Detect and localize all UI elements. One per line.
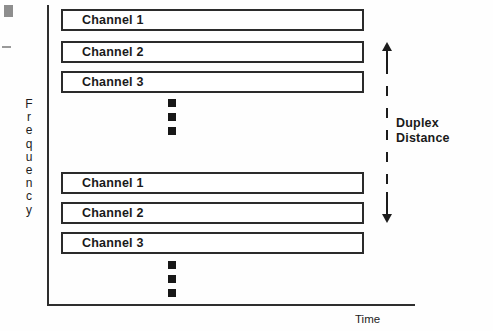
arrow-down-icon [386, 192, 388, 216]
channel-label: Channel 3 [82, 75, 144, 89]
ellipsis-dot [168, 99, 176, 107]
frequency-axis-label-letter: y [19, 204, 39, 217]
time-axis-label: Time [355, 313, 380, 325]
frequency-axis-label: F r e q u e n c y [19, 98, 39, 217]
ellipsis-dot [168, 289, 176, 297]
scan-artifact-square [4, 5, 13, 17]
lower-channel-box-1: Channel 1 [61, 172, 364, 194]
frequency-axis-label-letter: q [19, 138, 39, 151]
duplex-distance-label-line2: Distance [396, 131, 450, 146]
lower-channel-box-3: Channel 3 [61, 232, 364, 254]
duplex-distance-label-line1: Duplex [396, 116, 450, 131]
channel-label: Channel 2 [82, 45, 144, 59]
scan-artifact-dash [2, 46, 11, 48]
ellipsis-dot [168, 127, 176, 135]
upper-channel-box-1: Channel 1 [61, 9, 364, 31]
upper-channel-box-2: Channel 2 [61, 41, 364, 63]
channel-label: Channel 1 [82, 176, 144, 190]
time-axis-line [47, 304, 415, 306]
frequency-axis-label-letter: e [19, 124, 39, 137]
duplex-distance-arrow [379, 46, 395, 220]
ellipsis-dot [168, 275, 176, 283]
lower-vertical-ellipsis [168, 261, 177, 299]
fdd-duplex-distance-figure: F r e q u e n c y Time Channel 1 Channel… [0, 0, 493, 331]
channel-label: Channel 3 [82, 236, 144, 250]
ellipsis-dot [168, 261, 176, 269]
channel-label: Channel 2 [82, 206, 144, 220]
channel-label: Channel 1 [82, 13, 144, 27]
lower-channel-box-2: Channel 2 [61, 202, 364, 224]
duplex-distance-label: Duplex Distance [396, 116, 450, 145]
upper-channel-box-3: Channel 3 [61, 71, 364, 93]
upper-vertical-ellipsis [168, 99, 177, 137]
frequency-axis-label-letter: c [19, 190, 39, 203]
dashed-line [386, 64, 388, 202]
ellipsis-dot [168, 113, 176, 121]
frequency-axis-line [47, 5, 49, 306]
